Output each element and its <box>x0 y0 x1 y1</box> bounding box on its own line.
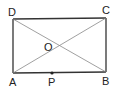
diagonal-bd <box>13 19 106 72</box>
label-b: B <box>102 75 109 87</box>
label-c: C <box>102 4 110 16</box>
label-d: D <box>8 6 16 18</box>
point-p-dot <box>50 71 53 74</box>
rectangle-diagram: D C O A P B <box>0 0 114 91</box>
side-cd <box>13 18 106 19</box>
side-ab <box>13 72 106 73</box>
label-p: P <box>48 76 55 88</box>
label-o: O <box>44 41 53 53</box>
label-a: A <box>9 76 17 88</box>
